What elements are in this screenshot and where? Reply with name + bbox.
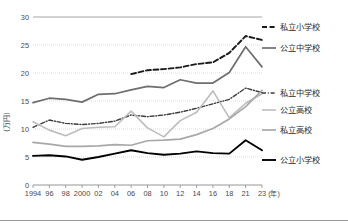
legend-label-2: 私立中学校 <box>280 88 320 98</box>
series-line-idx2 <box>33 47 262 103</box>
legend-label-3: 公立高校 <box>280 105 312 115</box>
x-tick-96: 96 <box>45 189 53 198</box>
series-line-shiritsu-shogakko <box>131 36 262 74</box>
x-axis <box>33 185 262 188</box>
chart-legend: 私立小学校公立中学校私立中学校公立高校私立高校公立小学校 <box>262 22 320 165</box>
x-tick-18: 18 <box>225 189 233 198</box>
x-axis-unit-label: (年) <box>268 189 280 198</box>
x-tick-16: 16 <box>209 189 217 198</box>
y-tick-15: 15 <box>21 97 29 106</box>
legend-label-5: 公立小学校 <box>280 155 320 165</box>
x-tick-2000: 2000 <box>74 189 90 198</box>
x-tick-98: 98 <box>62 189 70 198</box>
x-tick-23: 23 <box>258 189 266 198</box>
x-tick-10: 10 <box>160 189 168 198</box>
y-tick-30: 30 <box>21 13 29 22</box>
x-tick-02: 02 <box>94 189 102 198</box>
line-chart: 30 25 20 15 10 5 0 (万円) 1994 96 98 2000 … <box>0 0 348 223</box>
y-tick-20: 20 <box>21 69 29 78</box>
y-tick-5: 5 <box>25 153 29 162</box>
x-tick-1994: 1994 <box>25 189 41 198</box>
x-tick-04: 04 <box>111 189 119 198</box>
y-tick-10: 10 <box>21 125 29 134</box>
series-line-idx4 <box>33 91 262 137</box>
legend-label-0: 私立小学校 <box>280 22 320 32</box>
chart-container: 30 25 20 15 10 5 0 (万円) 1994 96 98 2000 … <box>0 0 348 223</box>
legend-label-4: 私立高校 <box>280 125 312 135</box>
y-axis-unit-label: (万円) <box>3 112 11 132</box>
x-tick-08: 08 <box>143 189 151 198</box>
legend-label-1: 公立中学校 <box>280 43 320 53</box>
y-tick-25: 25 <box>21 41 29 50</box>
x-tick-06: 06 <box>127 189 135 198</box>
x-tick-12: 12 <box>176 189 184 198</box>
data-series-layer <box>33 36 262 160</box>
bottom-divider <box>0 220 348 221</box>
x-tick-21: 21 <box>241 189 249 198</box>
y-tick-labels: 30 25 20 15 10 5 0 <box>21 13 29 190</box>
series-line-idx3 <box>33 88 262 127</box>
x-tick-labels: 1994 96 98 2000 02 04 06 08 10 12 14 16 … <box>25 189 280 198</box>
x-tick-14: 14 <box>192 189 200 198</box>
